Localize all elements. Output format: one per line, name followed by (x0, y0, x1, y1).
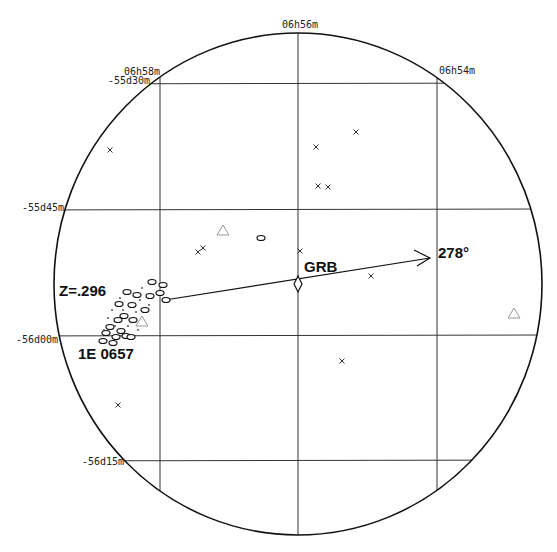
galaxy-ellipse-icon (106, 325, 114, 330)
cluster-dot (141, 287, 143, 289)
tick-labels: 06h56m 06h58m -55d30m 06h54m -55d45m -56… (16, 19, 475, 467)
dec-label-55d30m: -55d30m (108, 75, 150, 86)
x-mark-icon (108, 148, 113, 153)
galaxy-ellipse-icon (127, 335, 135, 340)
galaxy-ellipse-icon (133, 293, 141, 298)
galaxy-ellipse-icon (117, 329, 125, 334)
x-mark-icon (369, 274, 374, 279)
galaxy-ellipse-icon (123, 290, 131, 295)
triangle-icon (508, 308, 520, 318)
x-mark-icon (316, 184, 321, 189)
triangle-icon (217, 225, 229, 235)
redshift-label: Z=.296 (59, 282, 106, 299)
cluster-dot (148, 304, 150, 306)
cluster-dot (135, 311, 137, 313)
triangle-icon (136, 316, 148, 326)
cluster-label: 1E 0657 (78, 345, 134, 362)
dec-label-56d00m: -56d00m (16, 334, 58, 345)
ra-label-06h56m: 06h56m (282, 19, 318, 30)
dec-line-55d30m (0, 83, 557, 84)
galaxy-ellipse-icon (148, 280, 156, 285)
galaxy-ellipse-icon (112, 335, 120, 340)
x-mark-icon (196, 250, 201, 255)
galaxy-ellipse-icon (141, 308, 149, 313)
angle-label: 278° (438, 244, 469, 261)
x-mark-icon (116, 403, 121, 408)
cluster-dot (137, 329, 139, 331)
galaxy-ellipse-icon (257, 236, 265, 241)
ra-label-06h54m: 06h54m (439, 65, 475, 76)
cluster-dot (122, 309, 124, 311)
grid (0, 0, 557, 552)
x-mark-icon (314, 145, 319, 150)
sky-chart: 06h56m 06h58m -55d30m 06h54m -55d45m -56… (0, 0, 557, 552)
cluster-dot (111, 309, 113, 311)
cluster-dot (114, 325, 116, 327)
galaxy-ellipse-icon (99, 339, 107, 344)
galaxy-ellipse-icon (159, 283, 167, 288)
dec-line-56d00m (0, 335, 557, 336)
x-mark-icon (354, 130, 359, 135)
galaxy-ellipse-icon (102, 331, 110, 336)
cluster-dot (119, 297, 121, 299)
cluster-dot (127, 325, 129, 327)
galaxy-ellipse-icon (156, 291, 164, 296)
x-mark-icon (326, 185, 331, 190)
galaxy-ellipse-icon (146, 294, 154, 299)
galaxy-ellipse-icon (128, 303, 136, 308)
dec-label-55d45m: -55d45m (22, 202, 64, 213)
dec-line-55d45m (0, 209, 557, 210)
x-mark-icon (340, 359, 345, 364)
cluster-dot (103, 329, 105, 331)
galaxy-ellipse-icon (114, 318, 122, 323)
grb-label: GRB (304, 258, 338, 275)
dec-label-56d15m: -56d15m (82, 456, 124, 467)
x-mark-icon (201, 246, 206, 251)
galaxy-ellipse-icon (162, 298, 170, 303)
cluster-dot (107, 317, 109, 319)
galaxy-ellipse-icon (129, 318, 137, 323)
cluster-dot (139, 299, 141, 301)
galaxy-ellipse-icon (115, 302, 123, 307)
